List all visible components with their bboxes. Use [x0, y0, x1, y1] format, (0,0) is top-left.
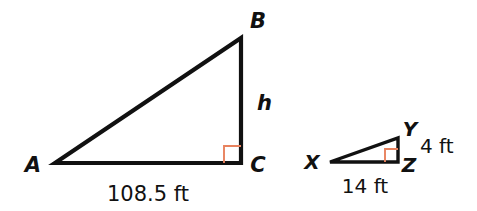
- triangle-XYZ-group: X Y Z 14 ft 4 ft: [302, 117, 453, 198]
- vertex-label-B: B: [250, 9, 266, 33]
- right-angle-marker-Z: [385, 149, 398, 162]
- side-label-AC-length: 108.5 ft: [107, 182, 189, 206]
- vertex-label-C: C: [250, 153, 266, 177]
- triangle-XYZ-outline: [330, 138, 398, 162]
- side-label-YZ-height: 4 ft: [420, 134, 454, 158]
- side-label-XZ-length: 14 ft: [342, 174, 388, 198]
- vertex-label-Z: Z: [401, 153, 417, 177]
- triangle-ABC-group: A B C 108.5 ft h: [23, 9, 272, 206]
- vertex-label-X: X: [302, 150, 321, 174]
- vertex-label-Y: Y: [403, 117, 420, 141]
- side-label-BC-height: h: [257, 91, 272, 115]
- figure-canvas: A B C 108.5 ft h X Y Z 14 ft 4 ft: [0, 0, 477, 211]
- geometry-figure: A B C 108.5 ft h X Y Z 14 ft 4 ft: [0, 0, 477, 211]
- vertex-label-A: A: [23, 153, 41, 177]
- triangle-ABC-outline: [55, 38, 241, 163]
- right-angle-marker-C: [224, 146, 241, 163]
